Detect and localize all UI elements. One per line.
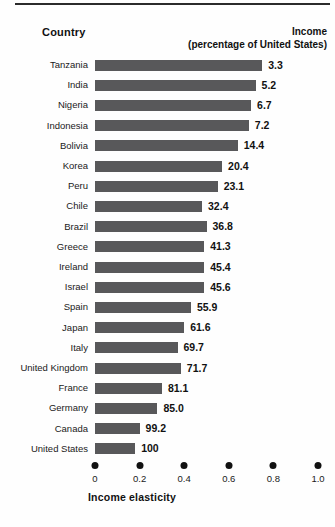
bar	[95, 282, 204, 293]
chart-row: Spain55.9	[0, 298, 335, 318]
column-header-country: Country	[42, 26, 86, 38]
bar-value-label: 71.7	[187, 362, 207, 374]
bar	[95, 443, 135, 454]
axis-tick-label: 0.8	[267, 473, 280, 484]
bar-value-label: 41.3	[210, 240, 230, 252]
chart-row: Bolivia14.4	[0, 137, 335, 157]
chart-header: Country Income (percentage of United Sta…	[0, 26, 335, 56]
chart-row: Tanzania3.3	[0, 56, 335, 76]
bar-value-label: 100	[141, 442, 159, 454]
bar-value-label: 45.6	[210, 281, 230, 293]
country-label: Bolivia	[0, 140, 88, 151]
bar	[95, 423, 140, 434]
country-label: Chile	[0, 200, 88, 211]
country-label: Peru	[0, 180, 88, 191]
income-elasticity-chart: Country Income (percentage of United Sta…	[0, 0, 335, 527]
axis-tick-dot	[315, 462, 322, 469]
bar-value-label: 23.1	[224, 180, 244, 192]
chart-row: Chile32.4	[0, 197, 335, 217]
bar-value-label: 81.1	[168, 382, 188, 394]
country-label: India	[0, 79, 88, 90]
country-label: Indonesia	[0, 120, 88, 131]
axis-tick-dot	[225, 462, 232, 469]
bar	[95, 201, 202, 212]
chart-row: Peru23.1	[0, 177, 335, 197]
axis-tick-label: 0.4	[178, 473, 191, 484]
axis-tick-label: 0.6	[222, 473, 235, 484]
country-label: Brazil	[0, 221, 88, 232]
bar	[95, 342, 178, 353]
chart-row: Greece41.3	[0, 238, 335, 258]
bar	[95, 60, 262, 71]
country-label: United Kingdom	[0, 362, 88, 373]
bar	[95, 383, 162, 394]
bar-value-label: 45.4	[210, 261, 230, 273]
bar-value-label: 69.7	[184, 341, 204, 353]
bar-value-label: 36.8	[213, 220, 233, 232]
top-rule-divider	[15, 3, 330, 5]
axis-tick-label: 0.2	[133, 473, 146, 484]
chart-row: Germany85.0	[0, 399, 335, 419]
bar	[95, 363, 181, 374]
bar-value-label: 99.2	[146, 422, 166, 434]
chart-row: United States100	[0, 440, 335, 460]
axis-tick-label: 1.0	[311, 473, 324, 484]
chart-row: Israel45.6	[0, 278, 335, 298]
bar-value-label: 5.2	[262, 79, 277, 91]
bar	[95, 322, 184, 333]
country-label: Spain	[0, 301, 88, 312]
country-label: Japan	[0, 322, 88, 333]
country-label: Nigeria	[0, 99, 88, 110]
bar	[95, 262, 204, 273]
plot-area: Tanzania3.3India5.2Nigeria6.7Indonesia7.…	[0, 56, 335, 460]
chart-row: Japan61.6	[0, 319, 335, 339]
country-label: Greece	[0, 241, 88, 252]
country-label: France	[0, 382, 88, 393]
bar-value-label: 14.4	[244, 139, 264, 151]
x-axis: Income elasticity 00.20.40.60.81.0	[0, 462, 335, 527]
bar	[95, 120, 249, 131]
chart-row: Brazil36.8	[0, 218, 335, 238]
chart-row: Canada99.2	[0, 420, 335, 440]
chart-row: Ireland45.4	[0, 258, 335, 278]
axis-tick-dot	[136, 462, 143, 469]
bar	[95, 80, 256, 91]
bar-value-label: 7.2	[255, 119, 270, 131]
country-label: Israel	[0, 281, 88, 292]
country-label: Canada	[0, 423, 88, 434]
country-label: Ireland	[0, 261, 88, 272]
country-label: Germany	[0, 402, 88, 413]
bar-value-label: 55.9	[197, 301, 217, 313]
chart-row: France81.1	[0, 379, 335, 399]
bar	[95, 241, 204, 252]
country-label: United States	[0, 443, 88, 454]
bar	[95, 403, 157, 414]
bar	[95, 140, 238, 151]
bar	[95, 302, 191, 313]
column-header-income: Income	[292, 26, 327, 37]
axis-tick-label: 0	[92, 473, 97, 484]
bar-value-label: 61.6	[190, 321, 210, 333]
bar	[95, 100, 251, 111]
bar	[95, 221, 207, 232]
bar	[95, 181, 218, 192]
chart-row: United Kingdom71.7	[0, 359, 335, 379]
bar-value-label: 32.4	[208, 200, 228, 212]
bar-value-label: 6.7	[257, 99, 272, 111]
bar-value-label: 20.4	[228, 160, 248, 172]
x-axis-title: Income elasticity	[88, 491, 176, 503]
chart-row: Italy69.7	[0, 339, 335, 359]
chart-row: Korea20.4	[0, 157, 335, 177]
bar-value-label: 85.0	[163, 402, 183, 414]
country-label: Korea	[0, 160, 88, 171]
axis-tick-dot	[270, 462, 277, 469]
bar-value-label: 3.3	[268, 59, 283, 71]
column-header-income-sublabel: (percentage of United States)	[188, 39, 327, 50]
country-label: Italy	[0, 342, 88, 353]
bar	[95, 161, 222, 172]
chart-row: Indonesia7.2	[0, 117, 335, 137]
chart-row: Nigeria6.7	[0, 96, 335, 116]
axis-tick-dot	[92, 462, 99, 469]
country-label: Tanzania	[0, 59, 88, 70]
chart-row: India5.2	[0, 76, 335, 96]
